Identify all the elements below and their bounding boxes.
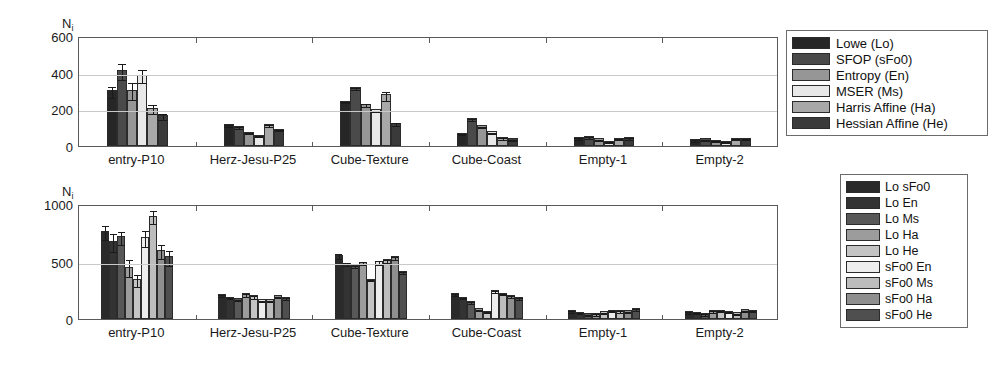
legend-swatch-icon xyxy=(846,309,880,321)
x-tick-label: Cube-Coast xyxy=(452,152,521,167)
error-bar-cap xyxy=(468,121,476,122)
bar-series-container-bottom xyxy=(79,206,777,319)
error-bar-cap xyxy=(717,312,724,313)
error-bar-cap xyxy=(275,131,283,132)
y-tick-label: 600 xyxy=(51,30,73,45)
x-tick-label: Empty-2 xyxy=(695,325,743,340)
x-tick-mark xyxy=(429,206,430,211)
error-bar xyxy=(142,70,143,84)
error-bar-cap xyxy=(742,140,750,141)
legend-item[interactable]: sFo0 Ha xyxy=(846,291,962,307)
x-tick-label: Herz-Jesu-P25 xyxy=(210,325,297,340)
x-tick-mark xyxy=(546,142,547,146)
error-bar-cap xyxy=(158,259,165,260)
error-bar xyxy=(153,211,154,224)
error-bar-cap xyxy=(134,275,141,276)
legend-swatch-icon xyxy=(792,53,830,65)
x-tick-label: Empty-1 xyxy=(579,152,627,167)
legend-item[interactable]: Lo He xyxy=(846,243,962,259)
error-bar-cap xyxy=(508,298,515,299)
gridline xyxy=(79,75,777,76)
error-bar-cap xyxy=(709,313,716,314)
error-bar-cap xyxy=(158,120,166,121)
error-bar-cap xyxy=(259,302,266,303)
legend-item-label: SFOP (sFo0) xyxy=(836,53,912,66)
legend-item[interactable]: MSER (Ms) xyxy=(792,83,982,99)
x-tick-label: Cube-Texture xyxy=(331,152,409,167)
error-bar xyxy=(121,232,122,245)
bar xyxy=(141,237,149,319)
legend-item-label: Lo En xyxy=(885,197,918,210)
error-bar-cap xyxy=(142,247,149,248)
legend-item[interactable]: Hessian Affine (He) xyxy=(792,115,982,131)
legend-item[interactable]: Lo sFo0 xyxy=(846,179,962,195)
legend-swatch-icon xyxy=(846,197,880,209)
error-bar-cap xyxy=(134,287,141,288)
bar xyxy=(499,293,507,319)
bar xyxy=(117,236,125,319)
legend-item[interactable]: Lowe (Lo) xyxy=(792,35,982,51)
legend-item-label: sFo0 En xyxy=(885,261,932,274)
x-tick-mark xyxy=(196,206,197,211)
bar xyxy=(371,109,381,146)
error-bar-cap xyxy=(335,259,342,260)
error-bar-cap xyxy=(478,128,486,129)
error-bar-cap xyxy=(265,127,273,128)
legend-item[interactable]: Entropy (En) xyxy=(792,67,982,83)
bar xyxy=(137,75,147,147)
bar xyxy=(351,265,359,319)
error-bar-cap xyxy=(243,294,250,295)
error-bar-cap xyxy=(108,98,116,99)
x-tick-mark xyxy=(196,38,197,43)
error-bar-cap xyxy=(126,277,133,278)
error-bar-cap xyxy=(218,295,225,296)
bar xyxy=(149,216,157,320)
error-bar-cap xyxy=(577,314,584,315)
legend-swatch-icon xyxy=(846,213,880,225)
error-bar-cap xyxy=(452,296,459,297)
error-bar-cap xyxy=(150,211,157,212)
error-bar-cap xyxy=(343,266,350,267)
chart-panel-bottom: Ni 05001000 entry-P10Herz-Jesu-P25Cube-T… xyxy=(0,172,790,367)
legend-item[interactable]: sFo0 Ms xyxy=(846,275,962,291)
y-tick-label: 1000 xyxy=(44,198,73,213)
y-tick-label: 0 xyxy=(66,140,73,155)
legend-swatch-icon xyxy=(846,181,880,193)
legend-item[interactable]: Lo Ms xyxy=(846,211,962,227)
legend-swatch-icon xyxy=(792,37,830,49)
error-bar-cap xyxy=(391,257,398,258)
error-bar-cap xyxy=(150,224,157,225)
legend-item[interactable]: sFo0 En xyxy=(846,259,962,275)
x-tick-mark xyxy=(312,315,313,319)
legend-item-label: MSER (Ms) xyxy=(836,85,903,98)
error-bar-cap xyxy=(725,313,732,314)
legend-item[interactable]: Lo En xyxy=(846,195,962,211)
x-tick-mark xyxy=(312,206,313,211)
legend-item-label: Harris Affine (Ha) xyxy=(836,101,935,114)
x-tick-mark xyxy=(662,315,663,319)
x-tick-mark xyxy=(546,38,547,43)
legend-item[interactable]: Lo Ha xyxy=(846,227,962,243)
error-bar-cap xyxy=(218,297,225,298)
legend-item[interactable]: Harris Affine (Ha) xyxy=(792,99,982,115)
legend-item[interactable]: SFOP (sFo0) xyxy=(792,51,982,67)
legend-swatch-icon xyxy=(792,101,830,113)
error-bar xyxy=(113,234,114,252)
x-tick-mark xyxy=(429,142,430,146)
error-bar xyxy=(122,64,123,80)
error-bar-cap xyxy=(615,140,623,141)
error-bar-cap xyxy=(227,299,234,300)
error-bar-cap xyxy=(118,232,125,233)
bar xyxy=(391,256,399,319)
error-bar-cap xyxy=(351,90,359,91)
x-tick-mark xyxy=(662,206,663,211)
error-bar-cap xyxy=(741,312,748,313)
error-bar-cap xyxy=(375,261,382,262)
error-bar-cap xyxy=(367,281,374,282)
error-bar-cap xyxy=(235,129,243,130)
error-bar xyxy=(132,83,133,100)
error-bar-cap xyxy=(108,87,116,88)
error-bar-cap xyxy=(235,301,242,302)
legend-item[interactable]: sFo0 He xyxy=(846,307,962,323)
legend-item-label: sFo0 Ms xyxy=(885,277,933,290)
